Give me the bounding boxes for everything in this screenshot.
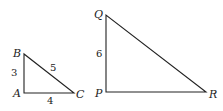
- vertex-label-p: P: [94, 87, 103, 100]
- side-length-ab: 3: [11, 67, 17, 78]
- triangle-abc-outline: [24, 54, 74, 93]
- side-length-ac: 4: [47, 95, 53, 106]
- vertex-label-r: R: [208, 88, 217, 101]
- vertex-label-b: B: [12, 47, 21, 60]
- triangle-pqr-outline: [106, 15, 206, 92]
- triangle-pqr: Q P R 6: [94, 8, 217, 101]
- side-length-pq: 6: [96, 48, 102, 59]
- vertex-label-a: A: [12, 87, 21, 100]
- vertex-label-q: Q: [94, 8, 103, 21]
- vertex-label-c: C: [76, 88, 85, 101]
- side-length-bc: 5: [50, 62, 56, 73]
- triangle-abc: B A C 3 5 4: [11, 47, 85, 106]
- similar-triangles-diagram: B A C 3 5 4 Q P R 6: [0, 0, 223, 111]
